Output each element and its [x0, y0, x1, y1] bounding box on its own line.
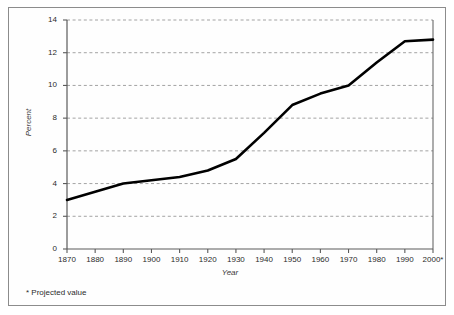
- ytick-label: 12: [35, 48, 57, 57]
- ytick-label: 10: [35, 80, 57, 89]
- xtick-label: 2000*: [416, 255, 450, 264]
- y-axis-title: Percent: [24, 93, 33, 153]
- gridline-group: [67, 20, 433, 216]
- ytick-label: 2: [35, 211, 57, 220]
- chart-figure: 02468101214 1870188018901900191019201930…: [0, 0, 454, 315]
- data-series-line: [67, 40, 433, 200]
- xtick-mark-group: [67, 249, 433, 253]
- ytick-label: 4: [35, 179, 57, 188]
- ytick-label: 0: [35, 244, 57, 253]
- x-axis-title: Year: [190, 268, 270, 277]
- ytick-label: 6: [35, 146, 57, 155]
- ytick-label: 8: [35, 113, 57, 122]
- ytick-label: 14: [35, 15, 57, 24]
- footnote-projected-value: * Projected value: [26, 288, 86, 297]
